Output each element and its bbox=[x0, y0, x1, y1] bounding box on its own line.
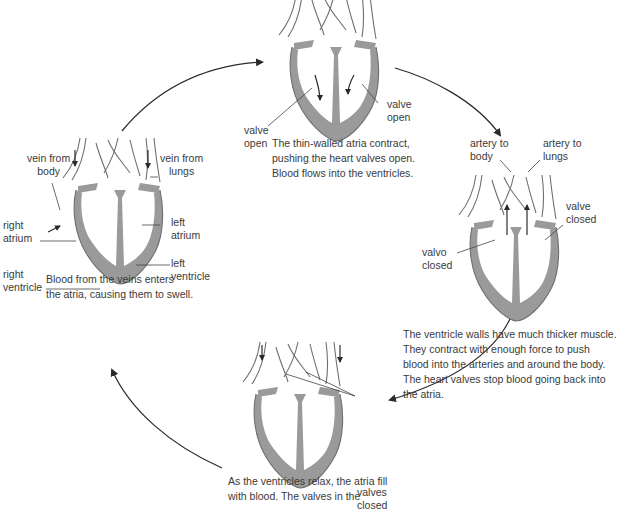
heart-stage-4 bbox=[243, 342, 343, 488]
label-artery-to-body: artery to body bbox=[470, 137, 509, 163]
label-valve-closed-right: valve closed bbox=[566, 200, 596, 226]
label-valve-open-left: valve open bbox=[244, 124, 269, 150]
caption-stage-3: The ventricle walls have much thicker mu… bbox=[403, 327, 617, 402]
label-vein-from-body: vein from body bbox=[27, 152, 70, 178]
cycle-arrow-left-to-top bbox=[122, 62, 262, 131]
label-artery-to-lungs: artery to lungs bbox=[543, 137, 582, 163]
arrow-atria-to-ventricle-left bbox=[315, 75, 320, 100]
caption-stage-4: As the ventricles relax, the atria fill … bbox=[228, 474, 387, 504]
label-valve-closed-left: valvo closed bbox=[422, 246, 452, 272]
label-left-atrium: left atrium bbox=[171, 216, 200, 242]
caption-stage-1: Blood from the veins enters the atria, c… bbox=[46, 272, 193, 302]
label-right-ventricle: right ventricle bbox=[3, 268, 42, 294]
arrow-atria-to-ventricle-right bbox=[348, 75, 354, 94]
cycle-arrow-bottom-to-left bbox=[112, 370, 222, 468]
arrow-inflow-vena-cava bbox=[48, 226, 60, 232]
label-valve-open-right: valve open bbox=[387, 98, 412, 124]
label-right-atrium: right atrium bbox=[3, 219, 32, 245]
heart-stage-2 bbox=[279, 0, 379, 141]
heart-stage-3 bbox=[459, 175, 559, 321]
caption-stage-2: The thin-walled atria contract, pushing … bbox=[272, 136, 415, 181]
label-vein-from-lungs: vein from lungs bbox=[160, 152, 203, 178]
